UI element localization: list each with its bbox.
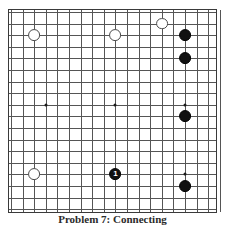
grid-line-vertical bbox=[127, 10, 128, 212]
grid-line-horizontal bbox=[9, 24, 216, 25]
grid-line-vertical bbox=[208, 10, 209, 212]
grid-line-horizontal bbox=[9, 82, 216, 83]
star-point bbox=[44, 103, 47, 106]
grid-line-horizontal bbox=[9, 47, 216, 48]
grid-line-horizontal bbox=[9, 151, 216, 152]
grid-line-vertical bbox=[173, 10, 174, 212]
grid-line-vertical bbox=[150, 10, 151, 212]
grid-line-horizontal bbox=[9, 93, 216, 94]
star-point bbox=[114, 103, 117, 106]
white-stone[interactable] bbox=[109, 29, 121, 41]
black-stone[interactable] bbox=[179, 52, 191, 64]
grid-line-horizontal bbox=[9, 12, 216, 13]
figure-root: 1 Problem 7: Connecting bbox=[0, 0, 225, 228]
grid-line-vertical bbox=[57, 10, 58, 212]
grid-line-vertical bbox=[46, 10, 47, 212]
grid-line-horizontal bbox=[9, 198, 216, 199]
grid-line-horizontal bbox=[9, 128, 216, 129]
grid-line-vertical bbox=[11, 10, 12, 212]
grid-line-horizontal bbox=[9, 70, 216, 71]
black-stone[interactable] bbox=[179, 110, 191, 122]
star-point bbox=[184, 103, 187, 106]
grid-line-vertical bbox=[69, 10, 70, 212]
white-stone[interactable] bbox=[28, 168, 40, 180]
black-stone[interactable] bbox=[179, 29, 191, 41]
grid-line-vertical bbox=[162, 10, 163, 212]
grid-line-vertical bbox=[139, 10, 140, 212]
grid-line-horizontal bbox=[9, 140, 216, 141]
grid-line-vertical bbox=[23, 10, 24, 212]
black-stone[interactable] bbox=[179, 180, 191, 192]
grid-line-vertical bbox=[92, 10, 93, 212]
star-point bbox=[184, 173, 187, 176]
go-board-wrapper: 1 bbox=[8, 9, 217, 213]
stone-move-number: 1 bbox=[113, 170, 117, 178]
white-stone[interactable] bbox=[28, 29, 40, 41]
grid-line-vertical bbox=[104, 10, 105, 212]
white-stone[interactable] bbox=[156, 18, 168, 30]
grid-line-horizontal bbox=[9, 163, 216, 164]
go-board[interactable]: 1 bbox=[8, 9, 217, 213]
grid-line-horizontal bbox=[9, 209, 216, 210]
grid-line-vertical bbox=[220, 10, 221, 212]
grid-line-vertical bbox=[81, 10, 82, 212]
black-stone[interactable]: 1 bbox=[109, 168, 121, 180]
figure-caption: Problem 7: Connecting bbox=[0, 213, 225, 228]
grid-line-vertical bbox=[197, 10, 198, 212]
